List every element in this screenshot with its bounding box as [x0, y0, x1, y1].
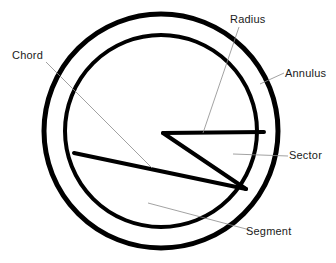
sector-leader-line [233, 154, 288, 156]
radius-leader-line [203, 27, 239, 133]
circle-diagram: Radius Annulus Chord Sector Segment [0, 0, 336, 263]
label-segment: Segment [246, 226, 291, 237]
chord-leader-line [46, 62, 152, 168]
label-radius: Radius [230, 14, 265, 25]
label-sector: Sector [289, 150, 322, 161]
label-chord: Chord [12, 50, 43, 61]
geometry-svg [0, 0, 336, 263]
sector-upper-radius-line [163, 132, 264, 133]
label-annulus: Annulus [285, 68, 326, 79]
